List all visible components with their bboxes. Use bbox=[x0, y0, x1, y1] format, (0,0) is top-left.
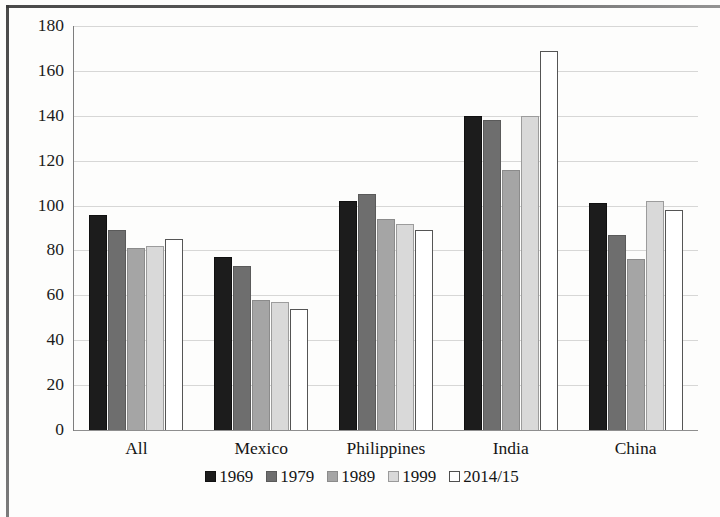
bar-mexico-1969 bbox=[214, 257, 232, 430]
y-tick-label-20: 20 bbox=[18, 376, 64, 394]
legend-item-1969[interactable]: 1969 bbox=[205, 468, 253, 485]
y-tick-label-40: 40 bbox=[18, 331, 64, 349]
y-axis-tick-labels: 180160140120100806040200 bbox=[12, 26, 64, 430]
y-tick-label-0: 0 bbox=[18, 421, 64, 439]
legend-swatch-icon-1999 bbox=[388, 471, 399, 482]
legend-item-1999[interactable]: 1999 bbox=[388, 468, 436, 485]
bar-china-2014-15 bbox=[665, 210, 683, 430]
bar-india-1969 bbox=[464, 116, 482, 430]
bars bbox=[89, 26, 183, 430]
bar-group-mexico bbox=[199, 26, 324, 430]
legend-swatch-icon-1989 bbox=[327, 471, 338, 482]
bar-china-1979 bbox=[608, 235, 626, 430]
y-tick-label-60: 60 bbox=[18, 287, 64, 305]
legend-label-1999: 1999 bbox=[402, 468, 436, 485]
bar-philippines-1979 bbox=[358, 194, 376, 430]
bar-china-1999 bbox=[646, 201, 664, 430]
bar-group-india bbox=[448, 26, 573, 430]
bar-all-2014-15 bbox=[165, 239, 183, 430]
legend-label-1979: 1979 bbox=[280, 468, 314, 485]
legend-label-1989: 1989 bbox=[341, 468, 375, 485]
bar-group-philippines bbox=[324, 26, 449, 430]
bar-china-1989 bbox=[627, 259, 645, 430]
page-border-left bbox=[6, 5, 9, 517]
legend-swatch-icon-1969 bbox=[205, 471, 216, 482]
bars bbox=[464, 26, 558, 430]
y-tick-label-120: 120 bbox=[18, 152, 64, 170]
legend-label-2014-15: 2014/15 bbox=[463, 468, 519, 485]
page-border-top bbox=[6, 5, 720, 8]
gridline-0 bbox=[74, 430, 698, 431]
bars bbox=[589, 26, 683, 430]
bar-all-1969 bbox=[89, 215, 107, 430]
bar-groups bbox=[74, 26, 698, 430]
x-label-all: All bbox=[74, 434, 199, 464]
x-axis-category-labels: AllMexicoPhilippinesIndiaChina bbox=[74, 434, 698, 464]
bar-group-all bbox=[74, 26, 199, 430]
legend-item-1989[interactable]: 1989 bbox=[327, 468, 375, 485]
bar-group-china bbox=[573, 26, 698, 430]
legend-item-1979[interactable]: 1979 bbox=[266, 468, 314, 485]
bar-india-1989 bbox=[502, 170, 520, 430]
y-tick-label-160: 160 bbox=[18, 62, 64, 80]
x-label-india: India bbox=[448, 434, 573, 464]
y-tick-label-140: 140 bbox=[18, 107, 64, 125]
bar-china-1969 bbox=[589, 203, 607, 430]
bar-mexico-1999 bbox=[271, 302, 289, 430]
bars bbox=[339, 26, 433, 430]
bar-philippines-1999 bbox=[396, 224, 414, 430]
bar-india-1999 bbox=[521, 116, 539, 430]
legend-swatch-icon-2014-15 bbox=[449, 471, 460, 482]
legend-swatch-icon-1979 bbox=[266, 471, 277, 482]
y-tick-label-80: 80 bbox=[18, 242, 64, 260]
y-tick-label-180: 180 bbox=[18, 17, 64, 35]
bar-all-1989 bbox=[127, 248, 145, 430]
bar-all-1999 bbox=[146, 246, 164, 430]
legend-item-2014-15[interactable]: 2014/15 bbox=[449, 468, 519, 485]
bar-india-1979 bbox=[483, 120, 501, 430]
bar-mexico-1989 bbox=[252, 300, 270, 430]
scanned-page: 180160140120100806040200 AllMexicoPhilip… bbox=[0, 0, 720, 517]
x-label-philippines: Philippines bbox=[324, 434, 449, 464]
bar-all-1979 bbox=[108, 230, 126, 430]
bar-mexico-1979 bbox=[233, 266, 251, 430]
plot-area bbox=[74, 26, 698, 430]
chart-legend: 19691979198919992014/15 bbox=[12, 468, 712, 485]
y-tick-label-100: 100 bbox=[18, 197, 64, 215]
grouped-bar-chart: 180160140120100806040200 AllMexicoPhilip… bbox=[12, 10, 712, 480]
bars bbox=[214, 26, 308, 430]
x-label-china: China bbox=[573, 434, 698, 464]
bar-philippines-2014-15 bbox=[415, 230, 433, 430]
bar-philippines-1969 bbox=[339, 201, 357, 430]
legend-label-1969: 1969 bbox=[219, 468, 253, 485]
bar-philippines-1989 bbox=[377, 219, 395, 430]
bar-india-2014-15 bbox=[540, 51, 558, 430]
bar-mexico-2014-15 bbox=[290, 309, 308, 430]
x-label-mexico: Mexico bbox=[199, 434, 324, 464]
